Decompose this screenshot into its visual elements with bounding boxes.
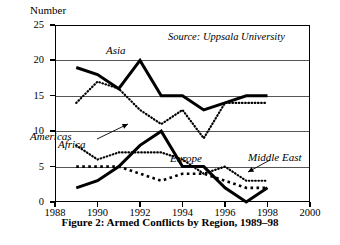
source-note: Source: Uppsala University xyxy=(168,31,285,42)
series-line-europe xyxy=(76,131,267,202)
figure-caption: Figure 2: Armed Conflicts by Region, 198… xyxy=(0,216,340,228)
series-label-middle-east: Middle East xyxy=(248,151,301,163)
series-label-asia: Asia xyxy=(106,44,126,56)
series-label-americas: Americas xyxy=(30,130,72,142)
series-label-europe: Europe xyxy=(170,152,202,164)
series-line-africa xyxy=(76,82,267,139)
leader-arrow-africa xyxy=(97,124,128,139)
figure-armed-conflicts: Number 0510152025 1988199019921994199619… xyxy=(0,0,340,245)
